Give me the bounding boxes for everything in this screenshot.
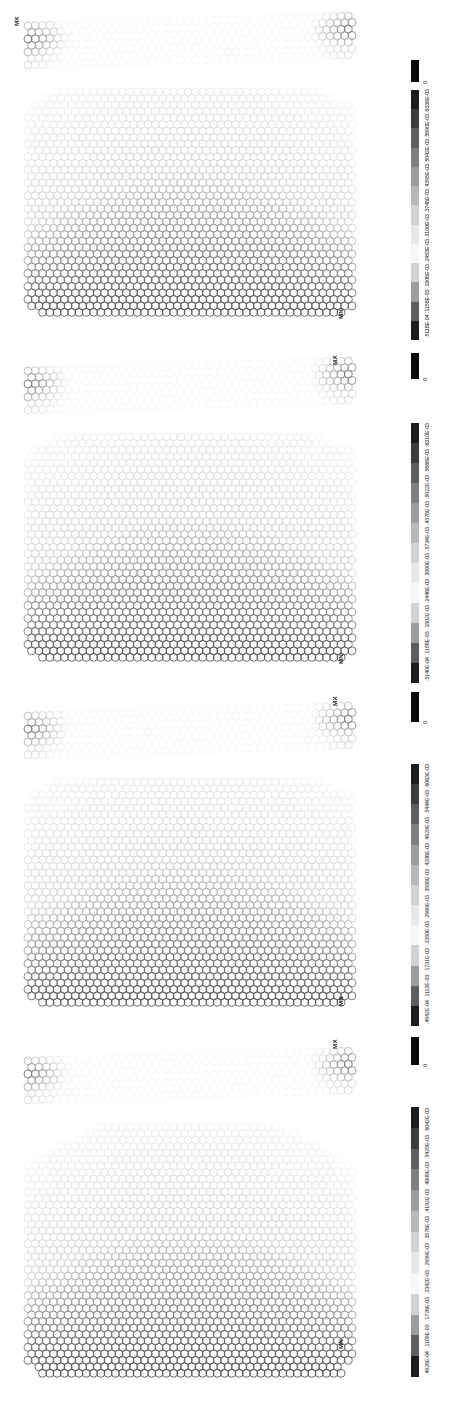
colorbar-segment bbox=[411, 824, 419, 844]
colorbar-segment bbox=[411, 885, 419, 905]
colorbar-segment bbox=[411, 986, 419, 1006]
zero-tick-label-4: 0 bbox=[422, 1064, 428, 1067]
colorbar-tick-label: .6310E-03 bbox=[424, 423, 430, 447]
colorbar-segment bbox=[411, 1232, 419, 1253]
colorbar-tick-label: .4378E-03 bbox=[424, 501, 430, 525]
legend-inner-4: 0 .4926E-04.1109E-03.1726E-03.2342E-03.2… bbox=[400, 1035, 469, 1402]
min-node-label-2: MN bbox=[338, 654, 344, 664]
colorbar-tick-label: .3588E-03 bbox=[424, 869, 430, 893]
colorbar-segment bbox=[411, 543, 419, 563]
plot-area-2[interactable]: MX MN bbox=[0, 345, 400, 690]
colorbar-tick-label: .5425E-03 bbox=[424, 1135, 430, 1159]
colorbar-segment bbox=[411, 663, 419, 683]
zero-tick-label-1: 0 bbox=[422, 81, 428, 84]
colorbar-tick-label: .2453E-03 bbox=[424, 239, 430, 263]
colorbar-segment bbox=[411, 1252, 419, 1273]
colorbar-tick-label: .4809E-03 bbox=[424, 1162, 430, 1186]
contour-panel-2[interactable]: MX MN 0 .5140E-04.1158E-03.1802E-03.2446… bbox=[0, 345, 469, 690]
colorbar-segment bbox=[411, 1273, 419, 1294]
colorbar-tick-label: .6063E-03 bbox=[424, 764, 430, 788]
mesh-plot-1 bbox=[0, 0, 400, 345]
colorbar-segment bbox=[411, 865, 419, 885]
colorbar-segment bbox=[411, 603, 419, 623]
colorbar-segment bbox=[411, 321, 419, 340]
colorbar-tick-label: .6338E-03 bbox=[424, 89, 430, 113]
colorbar-segment bbox=[411, 1211, 419, 1232]
colorbar-tick-label: .1158E-03 bbox=[424, 289, 430, 313]
legend-3[interactable]: 0 .4942E-04.1113E-03.1731E-03.2350E-03.2… bbox=[400, 690, 469, 1035]
legend-inner-2: 0 .5140E-04.1158E-03.1802E-03.2446E-03.3… bbox=[400, 345, 469, 690]
colorbar-tick-label: .2446E-03 bbox=[424, 579, 430, 603]
colorbar-3 bbox=[411, 764, 419, 1026]
colorbar-2 bbox=[411, 423, 419, 683]
colorbar-tick-label: .1731E-03 bbox=[424, 948, 430, 972]
colorbar-4 bbox=[411, 1107, 419, 1377]
colorbar-tick-label: .4942E-04 bbox=[424, 1000, 430, 1024]
colorbar-segment bbox=[411, 1128, 419, 1149]
colorbar-segment bbox=[411, 225, 419, 244]
contour-panel-1[interactable]: MX MN 0 .5118E-04.1158E-03.1806E-03.2453… bbox=[0, 0, 469, 345]
colorbar-segment bbox=[411, 845, 419, 865]
colorbar-tick-label: .5140E-04 bbox=[424, 657, 430, 681]
colorbar-tick-label: .4395E-03 bbox=[424, 164, 430, 188]
max-node-label-2: MX bbox=[332, 355, 338, 365]
max-node-label-4: MX bbox=[332, 1039, 338, 1049]
contour-panel-4[interactable]: MX MN 0 .4926E-04.1109E-03.1726E-03.2342… bbox=[0, 1035, 469, 1402]
legend-4[interactable]: 0 .4926E-04.1109E-03.1726E-03.2342E-03.2… bbox=[400, 1035, 469, 1402]
colorbar-tick-label: .4192E-03 bbox=[424, 1189, 430, 1213]
colorbar-segment bbox=[411, 1107, 419, 1128]
colorbar-tick-label: .5022E-03 bbox=[424, 475, 430, 499]
colorbar-segment bbox=[411, 764, 419, 784]
colorbar-segment bbox=[411, 263, 419, 282]
colorbar-tick-label: .5444E-03 bbox=[424, 790, 430, 814]
zero-swatch-4 bbox=[411, 1037, 419, 1065]
plot-area-1[interactable]: MX MN bbox=[0, 0, 400, 345]
colorbar-tick-label: .4926E-04 bbox=[424, 1351, 430, 1375]
zero-swatch-1 bbox=[411, 60, 419, 82]
colorbar-segment bbox=[411, 167, 419, 186]
max-node-label-1: MX bbox=[14, 16, 20, 26]
min-node-label-4: MN bbox=[338, 1339, 344, 1349]
colorbar-segment bbox=[411, 804, 419, 824]
colorbar-segment bbox=[411, 148, 419, 167]
colorbar-tick-label: .5042E-03 bbox=[424, 139, 430, 163]
mesh-plot-2 bbox=[0, 345, 400, 690]
colorbar-segment bbox=[411, 503, 419, 523]
plot-area-4[interactable]: MX MN bbox=[0, 1035, 400, 1402]
colorbar-tick-label: .1158E-03 bbox=[424, 631, 430, 655]
colorbar-tick-label: .3734E-03 bbox=[424, 527, 430, 551]
colorbar-segment bbox=[411, 966, 419, 986]
contour-panel-3[interactable]: MX MN 0 .4942E-04.1113E-03.1731E-03.2350… bbox=[0, 690, 469, 1035]
colorbar-tick-label: .1802E-03 bbox=[424, 605, 430, 629]
colorbar-segment bbox=[411, 1169, 419, 1190]
colorbar-segment bbox=[411, 1294, 419, 1315]
plot-area-3[interactable]: MX MN bbox=[0, 690, 400, 1035]
colorbar-tick-label: .4206E-03 bbox=[424, 843, 430, 867]
zero-tick-label-2: 0 bbox=[422, 378, 428, 381]
legend-2[interactable]: 0 .5140E-04.1158E-03.1802E-03.2446E-03.3… bbox=[400, 345, 469, 690]
colorbar-segment bbox=[411, 483, 419, 503]
colorbar-segment bbox=[411, 643, 419, 663]
zero-tick-label-3: 0 bbox=[422, 721, 428, 724]
colorbar-segment bbox=[411, 423, 419, 443]
colorbar-segment bbox=[411, 302, 419, 321]
colorbar-segment bbox=[411, 205, 419, 224]
colorbar-segment bbox=[411, 623, 419, 643]
legend-1[interactable]: 0 .5118E-04.1158E-03.1806E-03.2453E-03.3… bbox=[400, 0, 469, 345]
colorbar-tick-label: .2959E-03 bbox=[424, 1243, 430, 1267]
min-node-label-3: MN bbox=[338, 996, 344, 1006]
colorbar-segment bbox=[411, 109, 419, 128]
colorbar-tick-label: .1806E-03 bbox=[424, 264, 430, 288]
colorbar-segment bbox=[411, 282, 419, 301]
colorbar-tick-label: .3748E-03 bbox=[424, 189, 430, 213]
colorbar-segment bbox=[411, 463, 419, 483]
colorbar-tick-label: .1109E-03 bbox=[424, 1324, 430, 1348]
colorbar-tick-label: .3100E-03 bbox=[424, 214, 430, 238]
colorbar-tick-label: .3090E-03 bbox=[424, 553, 430, 577]
zero-swatch-2 bbox=[411, 353, 419, 379]
mesh-plot-3 bbox=[0, 690, 400, 1035]
colorbar-1 bbox=[411, 90, 419, 340]
colorbar-segment bbox=[411, 1190, 419, 1211]
legend-inner-1: 0 .5118E-04.1158E-03.1806E-03.2453E-03.3… bbox=[400, 0, 469, 345]
colorbar-tick-label: .3576E-03 bbox=[424, 1216, 430, 1240]
